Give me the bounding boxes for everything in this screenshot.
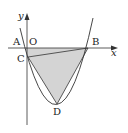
point-a-label: A xyxy=(12,36,21,47)
y-axis-label: y xyxy=(17,10,24,21)
shaded-triangle-region xyxy=(26,48,88,104)
y-axis-arrow-icon xyxy=(25,13,30,20)
origin-label: O xyxy=(29,36,37,47)
diagram-canvas: y x O A B C D xyxy=(0,0,128,133)
point-d-label: D xyxy=(53,106,61,117)
point-c-label: C xyxy=(17,53,25,64)
point-b-label: B xyxy=(92,36,99,47)
x-axis-label: x xyxy=(111,47,117,58)
